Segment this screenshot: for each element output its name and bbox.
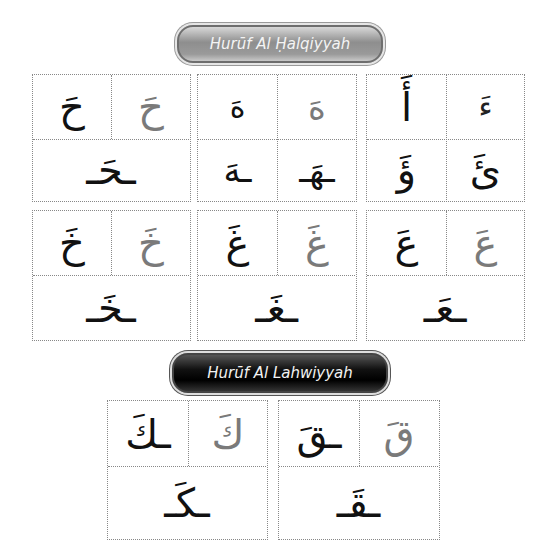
section-title-text: Hurūf Al Lahwiyyah <box>207 364 353 382</box>
letter-waw-hamzah: ؤَ <box>367 140 446 200</box>
letter-card-hamzah: أَ ءَ ؤَ ئَ <box>366 74 525 202</box>
section-title-text: Hurūf Al Ḥalqiyyah <box>210 35 351 53</box>
letter-card-qaf: ـقَ قَ ـقَـ <box>278 400 440 540</box>
letter-alif-hamzah: أَ <box>367 75 446 139</box>
letter-end-form: ـكَ <box>108 401 188 466</box>
letter-end-form: ـهَ <box>198 140 277 200</box>
letter-middle-form: ـقَـ <box>279 467 438 538</box>
letter-end-form: حَ <box>33 75 111 139</box>
letter-middle-form: ـعَـ <box>367 276 523 339</box>
letter-middle-form: ـحَـ <box>33 140 189 200</box>
letter-isolated-form: غَ <box>278 211 356 275</box>
letter-isolated-form: حَ <box>112 75 190 139</box>
letter-card-kha: خَ خَ ـخَـ <box>32 210 191 341</box>
letter-card-ain: عَ عَ ـعَـ <box>366 210 525 341</box>
letter-isolated-form: خَ <box>112 211 190 275</box>
letter-card-ha: حَ حَ ـحَـ <box>32 74 191 202</box>
letter-middle-form: ـكَـ <box>108 467 266 538</box>
letter-end-form: غَ <box>198 211 277 275</box>
letter-middle-form: ـغَـ <box>198 276 355 339</box>
letter-end-form: ـقَ <box>279 401 359 466</box>
letter-middle-form: ـهَـ <box>278 140 356 200</box>
letter-isolated-form: هَ <box>198 75 277 139</box>
letter-card-kaf: ـكَ كَ ـكَـ <box>107 400 268 540</box>
letter-card-haa: هَ هَ ـهَ ـهَـ <box>197 74 357 202</box>
letter-isolated-form-alt: هَ <box>278 75 356 139</box>
letter-end-form: خَ <box>33 211 111 275</box>
section-title-lahwiyyah: Hurūf Al Lahwiyyah <box>172 353 388 393</box>
letter-hamzah-isolated: ءَ <box>447 75 524 139</box>
letter-middle-form: ـخَـ <box>33 276 189 339</box>
letter-isolated-form: عَ <box>447 211 524 275</box>
letter-card-ghain: غَ غَ ـغَـ <box>197 210 357 341</box>
letter-isolated-form: كَ <box>189 401 267 466</box>
letter-end-form: عَ <box>367 211 446 275</box>
letter-isolated-form: قَ <box>360 401 438 466</box>
letter-ya-hamzah: ئَ <box>447 140 524 200</box>
section-title-halqiyyah: Hurūf Al Ḥalqiyyah <box>177 25 383 63</box>
